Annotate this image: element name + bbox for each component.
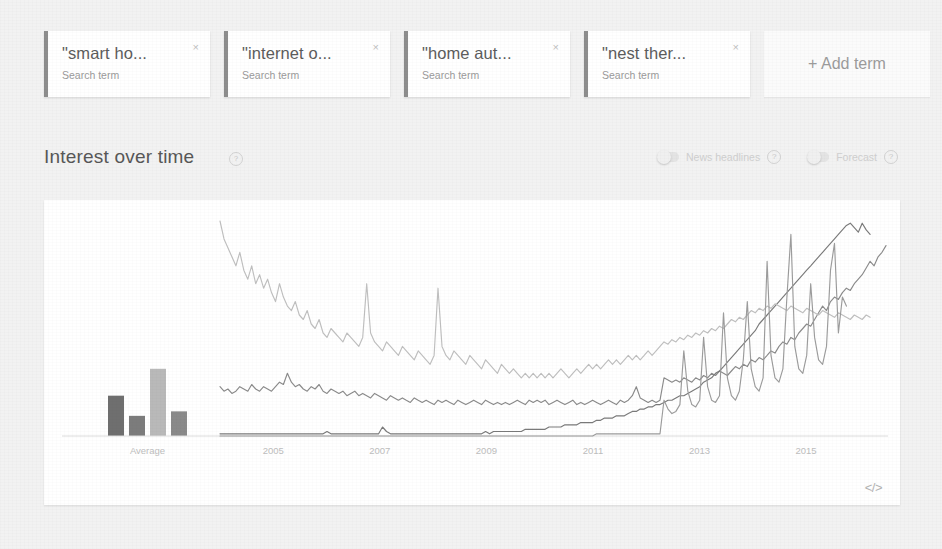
chart-line-series[interactable] — [220, 246, 886, 405]
help-icon[interactable]: ? — [229, 152, 243, 166]
toggle-switch[interactable] — [657, 152, 679, 162]
close-icon[interactable]: × — [733, 42, 739, 53]
close-icon[interactable]: × — [373, 42, 379, 53]
search-term-label: "internet o... — [242, 44, 332, 63]
search-term-label: "smart ho... — [62, 44, 147, 63]
toggle-label: Forecast — [836, 151, 877, 163]
toggle-switch[interactable] — [807, 152, 829, 162]
search-term-type: Search term — [422, 69, 479, 81]
close-icon[interactable]: × — [553, 42, 559, 53]
embed-code-icon[interactable]: </> — [865, 480, 882, 495]
search-term-label: "nest ther... — [602, 44, 686, 63]
axis-tick-label: 2007 — [369, 445, 390, 456]
search-term-type: Search term — [242, 69, 299, 81]
axis-tick-label: 2015 — [796, 445, 817, 456]
search-term-type: Search term — [62, 69, 119, 81]
average-bar[interactable] — [129, 416, 145, 436]
help-icon[interactable]: ? — [767, 150, 781, 164]
toggle-label: News headlines — [686, 151, 760, 163]
axis-tick-label: Average — [130, 445, 165, 456]
average-bar[interactable] — [150, 369, 166, 436]
search-term-chip-2[interactable]: "home aut... Search term × — [404, 31, 570, 97]
toggle-forecast[interactable]: Forecast ? — [807, 150, 898, 164]
search-term-type: Search term — [602, 69, 659, 81]
search-term-chip-3[interactable]: "nest ther... Search term × — [584, 31, 750, 97]
interest-over-time-chart-card: Average200520072009201120132015 </> — [44, 200, 900, 505]
chart-line-series[interactable] — [220, 223, 870, 434]
search-term-chip-1[interactable]: "internet o... Search term × — [224, 31, 390, 97]
search-term-label: "home aut... — [422, 44, 512, 63]
search-term-chip-0[interactable]: "smart ho... Search term × — [44, 31, 210, 97]
page-title: Interest over time — [44, 146, 194, 168]
search-terms-row: "smart ho... Search term × "internet o..… — [44, 31, 930, 97]
average-bar[interactable] — [108, 396, 124, 436]
axis-tick-label: 2013 — [689, 445, 710, 456]
trends-line-chart[interactable]: Average200520072009201120132015 — [44, 200, 900, 462]
header-toggles: News headlines ? Forecast ? — [657, 150, 898, 164]
close-icon[interactable]: × — [193, 42, 199, 53]
axis-tick-label: 2005 — [263, 445, 284, 456]
chart-line-series[interactable] — [220, 221, 870, 378]
interest-over-time-header: Interest over time ? News headlines ? Fo… — [44, 146, 898, 176]
axis-tick-label: 2011 — [583, 445, 603, 456]
axis-tick-label: 2009 — [476, 445, 497, 456]
add-term-button[interactable]: + Add term — [764, 31, 930, 97]
chart-line-series[interactable] — [220, 234, 846, 436]
toggle-news-headlines[interactable]: News headlines ? — [657, 150, 781, 164]
help-icon[interactable]: ? — [884, 150, 898, 164]
average-bar[interactable] — [171, 411, 187, 436]
